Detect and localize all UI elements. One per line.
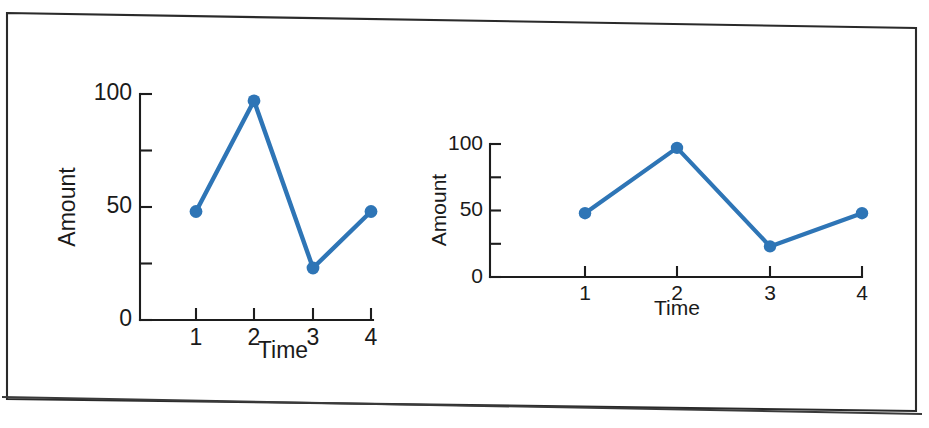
- right-y-axis-title: Amount: [427, 174, 450, 247]
- left-y-axis-title: Amount: [54, 167, 80, 247]
- left-data-point-1: [190, 205, 203, 218]
- left-x-axis-title: Time: [258, 337, 308, 363]
- right-data-point-2: [671, 142, 683, 154]
- left-y-tick-label-100: 100: [94, 79, 132, 105]
- right-data-line: [585, 148, 862, 247]
- right-x-tick-label-4: 4: [856, 281, 868, 304]
- left-data-point-3: [307, 262, 320, 275]
- left-data-line: [196, 101, 371, 268]
- left-x-tick-label-4: 4: [365, 324, 378, 350]
- page-rule-below-figure: [2, 397, 922, 414]
- right-y-tick-label-50: 50: [460, 197, 483, 220]
- right-data-point-4: [856, 207, 868, 219]
- left-chart-svg: 100 50 0 1 2 3 4 Time Amount: [40, 55, 410, 375]
- left-y-tick-label-0: 0: [119, 305, 132, 331]
- left-x-tick-label-3: 3: [307, 324, 320, 350]
- right-data-point-1: [579, 207, 591, 219]
- right-chart-svg: 100 50 0 1 2 3 4 Time Amount: [420, 110, 920, 370]
- right-x-tick-label-3: 3: [764, 281, 776, 304]
- left-x-tick-label-1: 1: [190, 324, 203, 350]
- left-chart-panel: 100 50 0 1 2 3 4 Time Amount: [40, 55, 410, 375]
- right-y-tick-label-0: 0: [471, 264, 483, 287]
- right-y-tick-label-100: 100: [448, 131, 483, 154]
- left-y-tick-label-50: 50: [106, 192, 132, 218]
- right-data-point-3: [764, 240, 776, 252]
- right-x-axis-title: Time: [654, 296, 700, 319]
- right-chart-panel: 100 50 0 1 2 3 4 Time Amount: [420, 110, 920, 370]
- figure-root: 100 50 0 1 2 3 4 Time Amount: [0, 0, 929, 428]
- right-x-tick-label-1: 1: [579, 281, 591, 304]
- left-data-point-4: [365, 205, 378, 218]
- left-data-point-2: [248, 94, 261, 107]
